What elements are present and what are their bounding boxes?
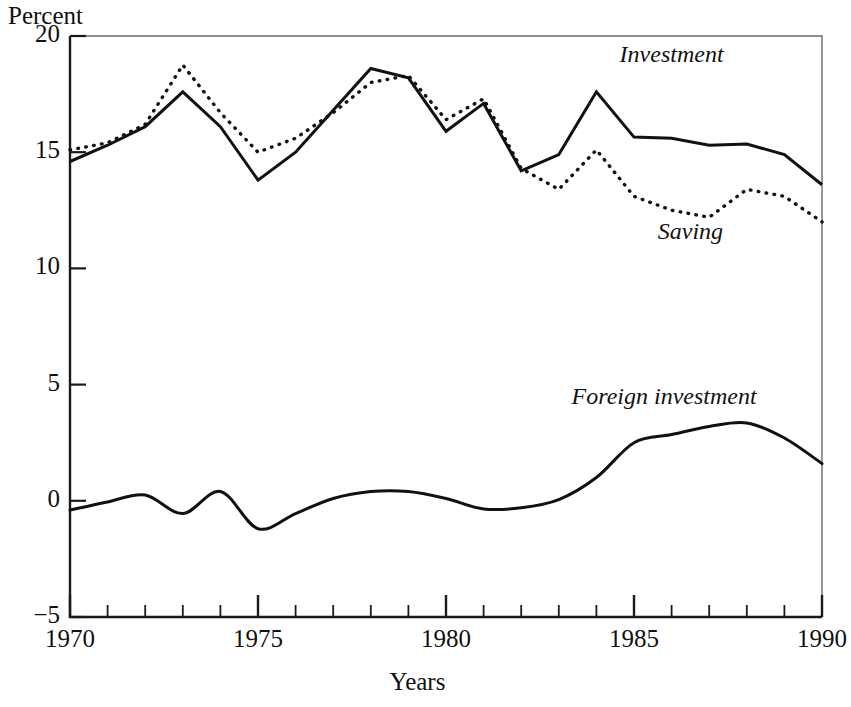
series-line-investment bbox=[70, 69, 822, 185]
x-tick-label: 1985 bbox=[574, 625, 694, 653]
series-line-saving bbox=[70, 65, 822, 222]
x-tick-label: 1990 bbox=[762, 625, 851, 653]
x-tick-label: 1975 bbox=[198, 625, 318, 653]
series-line-foreign-investment bbox=[70, 422, 822, 529]
series-label-investment: Investment bbox=[620, 41, 724, 68]
y-tick-label: 15 bbox=[2, 136, 60, 164]
plot-frame bbox=[70, 36, 822, 617]
series-lines bbox=[70, 65, 822, 529]
series-label-saving: Saving bbox=[658, 218, 723, 245]
y-tick-label: 5 bbox=[2, 369, 60, 397]
series-label-foreign-investment: Foreign investment bbox=[572, 383, 757, 410]
x-tick-label: 1980 bbox=[386, 625, 506, 653]
y-tick-label: 0 bbox=[2, 485, 60, 513]
y-axis-ticks bbox=[70, 36, 86, 617]
y-tick-label: 10 bbox=[2, 252, 60, 280]
x-tick-label: 1970 bbox=[10, 625, 130, 653]
x-axis-ticks bbox=[70, 595, 822, 617]
y-tick-label: 20 bbox=[2, 20, 60, 48]
x-axis-title: Years bbox=[0, 668, 835, 696]
